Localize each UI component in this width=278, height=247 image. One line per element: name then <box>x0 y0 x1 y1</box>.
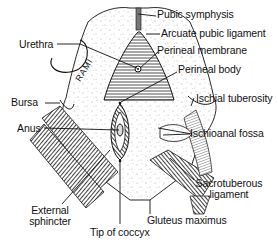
label-tip-of-coccyx: Tip of coccyx <box>90 227 150 238</box>
label-external-sphincter: External sphincter <box>25 205 75 227</box>
label-perineal-body: Perineal body <box>178 64 241 75</box>
label-ischial-tuberosity: Ischial tuberosity <box>196 93 272 104</box>
label-external-sphincter-line2: sphincter <box>25 216 75 227</box>
label-perineal-membrane: Perineal membrane <box>157 45 247 56</box>
label-arcuate-pubic-ligament: Arcuate pubic ligament <box>161 28 266 39</box>
label-urethra: Urethra <box>19 39 53 50</box>
label-pubic-symphysis: Pubic symphysis <box>157 9 234 20</box>
label-sacrotuberous-line2: ligament <box>189 189 269 200</box>
label-gluteus-maximus: Gluteus maximus <box>147 215 227 226</box>
label-bursa: Bursa <box>11 97 38 108</box>
label-anus: Anus <box>17 123 41 134</box>
label-ischioanal-fossa: Ischioanal fossa <box>190 128 264 139</box>
label-sacrotuberous-ligament: Sacrotuberous ligament <box>189 178 269 200</box>
